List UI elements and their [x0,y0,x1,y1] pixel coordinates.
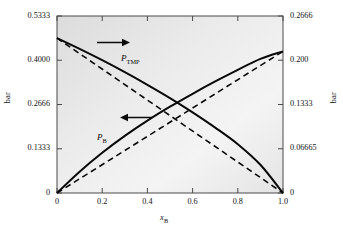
right-tick-label: 0.200 [290,55,308,64]
p-tmp-label-sub: TMP [127,58,140,65]
plot-background [57,16,283,193]
bottom-tick-label: 1.0 [263,197,303,206]
bottom-tick-label: 0.6 [173,197,213,206]
left-tick-label: 0.4000 [27,55,50,64]
bottom-tick-label: 0 [37,197,77,206]
bottom-tick-label: 0.4 [127,197,167,206]
right-tick-label: 0.2666 [290,11,313,20]
right-axis-title: bar [328,92,338,103]
left-tick-label: 0.2666 [27,99,50,108]
right-tick-label: 0.06665 [290,143,317,152]
p-b-curve-label: PB [97,132,107,144]
right-tick-label: 0.1333 [290,99,313,108]
left-tick-label: 0.1333 [27,143,50,152]
p-tmp-curve-label: PTMP [121,53,140,65]
left-tick-label: 0 [46,188,50,197]
p-b-label-sub: B [103,137,107,144]
bottom-tick-label: 0.2 [82,197,122,206]
x-axis-title: xB [160,212,168,224]
left-axis-title: bar [2,92,12,103]
left-tick-label: 0.5333 [27,11,50,20]
vapor-pressure-chart: 00.13330.26660.40000.5333 00.066650.1333… [0,0,343,230]
right-tick-label: 0 [290,188,294,197]
bottom-tick-label: 0.8 [218,197,258,206]
x-axis-title-sub: B [164,217,168,224]
